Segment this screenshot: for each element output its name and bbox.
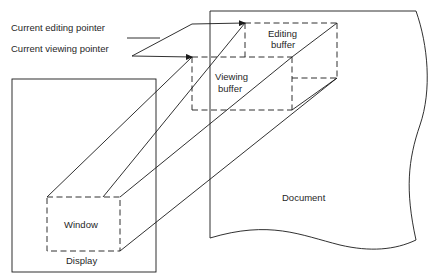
viewing-pointer-label: Current viewing pointer xyxy=(11,43,109,54)
display-label: Display xyxy=(66,255,97,266)
editing-pointer-arrow xyxy=(127,23,245,56)
document-label: Document xyxy=(282,192,326,203)
window-label: Window xyxy=(64,219,98,230)
viewing-buffer-label-2: buffer xyxy=(218,83,242,94)
projection-lines xyxy=(47,23,337,251)
buffer-window-diagram: Current editing pointer Current viewing … xyxy=(0,0,432,280)
display-box xyxy=(12,79,156,272)
editing-buffer-label-2: buffer xyxy=(271,39,295,50)
viewing-pointer-arrow xyxy=(132,56,192,57)
document-shape xyxy=(210,11,427,249)
viewing-buffer-label-1: Viewing xyxy=(215,71,248,82)
editing-buffer-label-1: Editing xyxy=(268,28,297,39)
editing-pointer-label: Current editing pointer xyxy=(11,22,105,33)
